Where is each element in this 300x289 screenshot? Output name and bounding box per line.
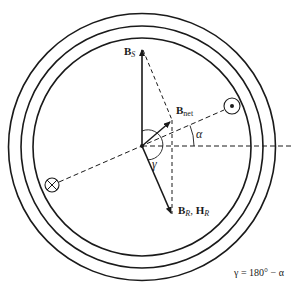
bnet-label: Bnet (176, 105, 193, 118)
hr-main: H (196, 204, 205, 216)
alpha-arc (190, 126, 194, 147)
bs-to-bnet-dashed (143, 50, 172, 120)
origin-point (140, 144, 144, 148)
br-hr-label: BR, HR (178, 205, 209, 218)
gamma-arc (142, 130, 163, 160)
bs-sub: S (131, 50, 135, 59)
dot-symbol-icon (224, 98, 240, 114)
machine-field-diagram (0, 0, 300, 289)
alpha-label: α (196, 128, 202, 140)
hr-sub: R (204, 209, 209, 218)
bs-label: BS (124, 46, 135, 59)
gamma-label: γ (152, 158, 157, 170)
bnet-sub: net (183, 109, 193, 118)
cross-symbol-icon (45, 178, 59, 192)
bnet-vector (142, 122, 170, 146)
formula-label: γ = 180° − α (234, 268, 284, 278)
